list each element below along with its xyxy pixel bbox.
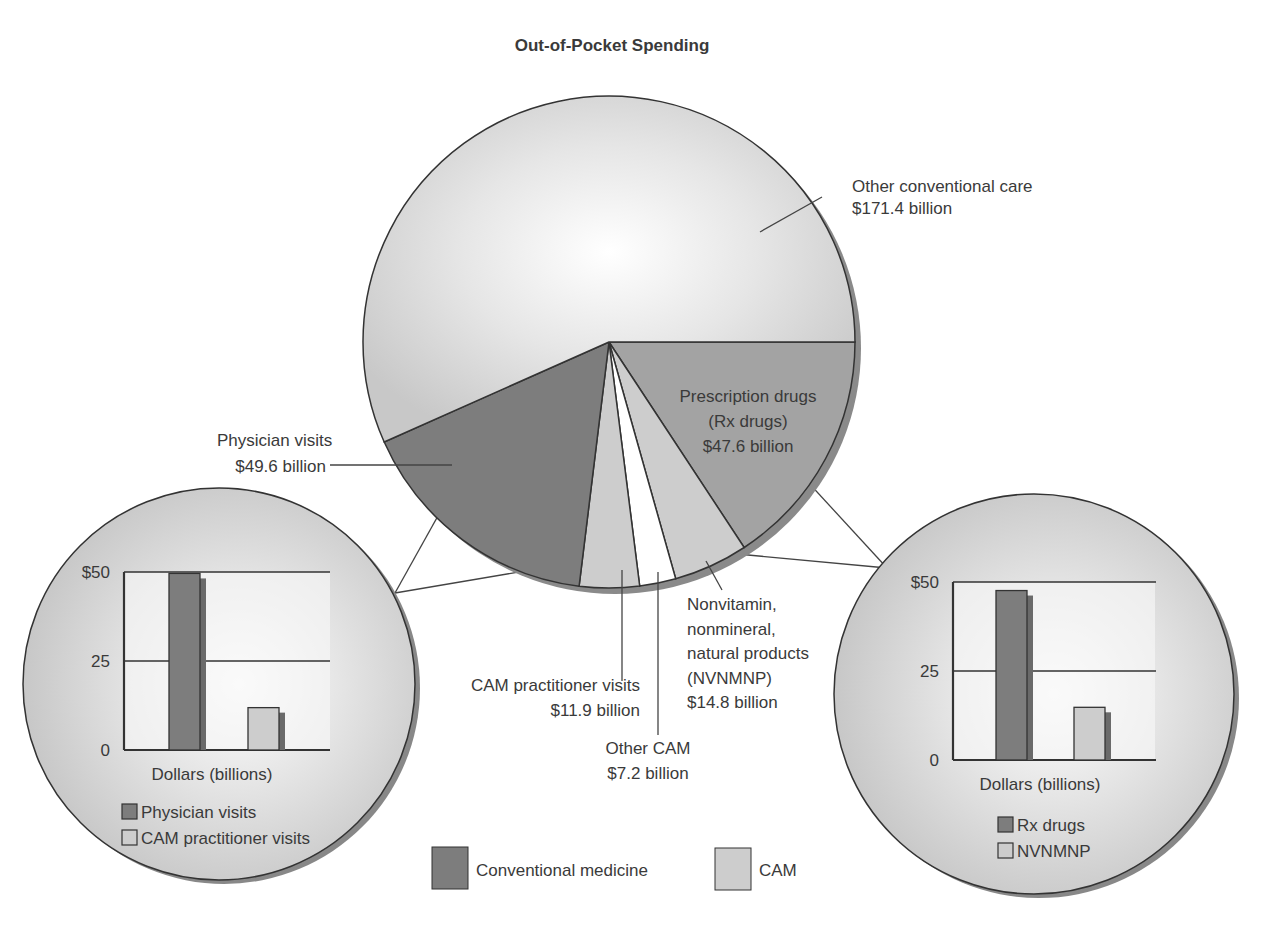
bar-legend-swatch (122, 804, 137, 819)
bar-legend-label: NVNMNP (1017, 842, 1091, 861)
pie-label-nvnmnp-line-1: nonmineral, (687, 620, 776, 639)
legend-swatch-conventional (432, 847, 468, 889)
pie-label-other_cam-line-0: Other CAM (605, 739, 690, 758)
y-tick-label: 0 (101, 741, 110, 760)
y-tick-label: $50 (911, 573, 939, 592)
pie-label-rx-line-2: $47.6 billion (703, 437, 794, 456)
bar-1 (1074, 707, 1105, 760)
pie-label-other_conv-line-1: $171.4 billion (852, 199, 952, 218)
pie-label-rx-line-1: (Rx drugs) (708, 412, 787, 431)
pie-label-cam_visits-line-0: CAM practitioner visits (471, 676, 640, 695)
pie-label-nvnmnp-line-3: (NVNMNP) (687, 669, 772, 688)
bar-0 (169, 573, 200, 750)
out-of-pocket-chart: Out-of-Pocket Spending 025$50Dollars (bi… (0, 0, 1271, 928)
pie-label-nvnmnp-line-4: $14.8 billion (687, 693, 778, 712)
pie-label-other_conv-line-0: Other conventional care (852, 177, 1033, 196)
pie-label-other_cam-line-1: $7.2 billion (607, 764, 688, 783)
legend-label-conventional: Conventional medicine (476, 861, 648, 880)
pie-label-cam_visits-line-1: $11.9 billion (551, 701, 640, 720)
bar-legend-swatch (998, 817, 1013, 832)
legend-label-cam: CAM (759, 861, 797, 880)
y-tick-label: 0 (930, 751, 939, 770)
x-axis-label: Dollars (billions) (980, 775, 1101, 794)
x-axis-label: Dollars (billions) (152, 765, 273, 784)
physician-vs-cam-bar-chart: 025$50Dollars (billions)Physician visits… (23, 488, 420, 884)
pie-label-physician-line-0: Physician visits (217, 431, 332, 450)
bar-legend-label: Physician visits (141, 803, 256, 822)
y-tick-label: 25 (91, 652, 110, 671)
pie-label-physician-line-1: $49.6 billion (235, 457, 326, 476)
y-tick-label: $50 (82, 563, 110, 582)
main-legend: Conventional medicine CAM (432, 847, 797, 890)
bar-legend-swatch (122, 830, 137, 845)
legend-swatch-cam (715, 848, 751, 890)
chart-title: Out-of-Pocket Spending (515, 36, 710, 55)
bar-0 (996, 591, 1027, 760)
bar-1 (248, 708, 279, 750)
pie-label-rx-line-0: Prescription drugs (679, 387, 816, 406)
bar-legend-swatch (998, 843, 1013, 858)
y-tick-label: 25 (920, 662, 939, 681)
rx-vs-nvnmnp-bar-chart: 025$50Dollars (billions)Rx drugsNVNMNP (834, 494, 1239, 898)
bar-legend-label: CAM practitioner visits (141, 829, 310, 848)
pie-label-nvnmnp-line-2: natural products (687, 644, 809, 663)
bar-legend-label: Rx drugs (1017, 816, 1085, 835)
pie-chart (363, 96, 861, 594)
pie-label-nvnmnp-line-0: Nonvitamin, (687, 595, 777, 614)
